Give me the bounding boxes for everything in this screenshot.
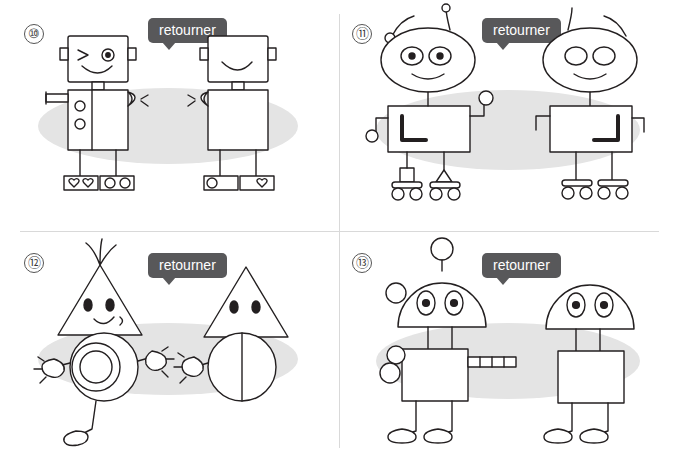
panel-12: ⑫ retourner [0,231,340,462]
left-eye-right [106,299,114,311]
right-wheel-3 [598,187,610,199]
left-head [68,36,128,82]
figure-10 [0,0,340,231]
right-foot-2 [580,429,608,443]
left-head [381,28,475,92]
panel-separator-vertical [339,14,340,448]
right-head [208,36,268,82]
right-eye-left [565,47,587,65]
right-body [558,351,624,403]
left-foot [64,431,88,446]
right-wheelbar-1 [562,180,592,186]
right-foot-right [240,176,274,190]
left-foot-circle-1 [105,178,115,188]
left-button-top [75,101,85,111]
left-ball-1 [387,346,405,364]
panel-10: ⑩ retourner [0,0,340,231]
left-pupil-left [409,53,415,59]
left-wheel-4 [448,188,460,200]
right-head [543,28,637,92]
left-hand-right [479,91,493,105]
left-foot-circle-2 [120,178,130,188]
left-head-side-ball [386,283,406,303]
left-head-triangle [58,265,142,335]
right-body [208,90,268,150]
figure-11 [340,0,679,231]
left-pupil-left [423,300,430,307]
left-button-bottom [75,119,85,129]
panel-11: ⑪ retourner [340,0,679,231]
left-head-dome [398,283,486,327]
right-head-ear-left [200,48,208,60]
left-pupil-right [437,53,443,59]
right-head-dome [546,285,634,329]
left-pupil-right [451,300,458,307]
left-pupil-right [106,53,110,57]
right-eye-left [230,301,238,313]
right-pupil-left [573,302,580,309]
left-leg-tri [436,170,452,182]
left-wheelbar-1 [392,182,422,188]
left-head-ear-left [60,48,68,60]
left-leg-box-1 [400,168,414,182]
left-antenna-ball [431,238,453,260]
left-ball-2 [380,363,400,383]
left-foot-2 [424,429,452,443]
left-hand-left [42,359,64,377]
left-wheelbar-2 [430,182,460,188]
right-eye-right [252,301,260,313]
figure-12 [0,231,340,462]
right-wheelbar-2 [598,180,628,186]
right-wheel-4 [616,187,628,199]
left-wheel-2 [410,188,422,200]
right-head-ear-right [268,48,276,60]
right-pupil-right [601,302,608,309]
right-antenna-2 [568,8,572,30]
left-antenna-ball-2 [442,4,450,12]
right-neck [232,82,244,90]
right-head-triangle [204,267,288,337]
left-hair [86,239,116,265]
figure-13 [340,231,679,462]
right-wheel-1 [562,187,574,199]
left-eye-left [84,299,92,311]
panel-13: ⑬ retourner [340,231,679,462]
right-foot-1 [544,429,572,443]
left-wheel-3 [430,188,442,200]
left-hand-left [366,130,378,142]
left-head-ear-right [128,48,136,60]
right-eye-right [593,47,615,65]
left-wheel-1 [392,188,404,200]
left-neck [92,82,104,90]
right-wheel-2 [580,187,592,199]
left-arm-left [46,94,68,102]
right-foot-circle-1 [207,178,217,188]
left-foot-1 [388,429,416,443]
left-body [402,349,468,401]
